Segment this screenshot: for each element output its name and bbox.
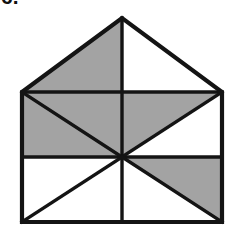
house-pentagon-figure: [0, 0, 244, 234]
figure-page: 6.: [0, 0, 244, 234]
